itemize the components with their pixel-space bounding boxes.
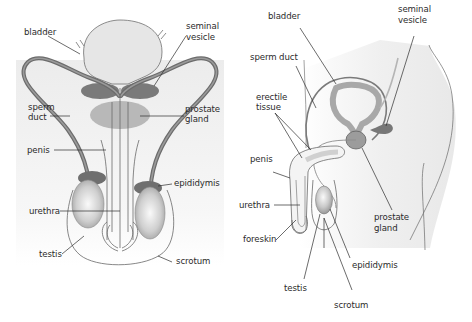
side-label-testis: testis <box>284 283 307 294</box>
side-label-urethra: urethra <box>239 200 270 211</box>
front-testis-left <box>72 180 104 228</box>
front-label-epididymis: epididymis <box>174 178 220 189</box>
front-label-seminal-vesicle-line2: vesicle <box>186 32 215 43</box>
front-view-diagram <box>0 0 472 322</box>
front-label-sperm-duct-line1: sperm <box>28 102 54 113</box>
front-label-seminal-vesicle-line1: seminal <box>186 21 219 32</box>
front-testis-right <box>135 187 165 239</box>
side-label-prostate-gland-line2: gland <box>374 223 398 234</box>
side-label-seminal-vesicle-line1: seminal <box>398 4 431 15</box>
side-label-erectile-tissue-line2: tissue <box>256 102 281 113</box>
side-label-bladder: bladder <box>268 11 300 22</box>
side-label-prostate-gland-line1: prostate <box>374 212 409 223</box>
front-label-scrotum: scrotum <box>176 256 210 267</box>
side-label-penis: penis <box>250 154 273 165</box>
side-label-erectile-tissue-line1: erectile <box>256 92 287 103</box>
side-label-foreskin: foreskin <box>243 234 276 245</box>
front-label-sperm-duct-line2: duct <box>28 112 47 123</box>
anatomy-figure: bladder seminal vesicle sperm duct prost… <box>0 0 472 322</box>
side-label-sperm-duct: sperm duct <box>250 52 298 63</box>
front-label-testis: testis <box>39 249 62 260</box>
front-label-bladder: bladder <box>24 27 56 38</box>
side-label-epididymis: epididymis <box>352 260 398 271</box>
side-label-seminal-vesicle-line2: vesicle <box>398 15 427 26</box>
side-label-scrotum: scrotum <box>334 300 368 311</box>
front-label-urethra: urethra <box>29 206 60 217</box>
front-label-penis: penis <box>27 145 50 156</box>
front-label-prostate-gland-line1: prostate <box>185 104 220 115</box>
front-label-prostate-gland-line2: gland <box>185 114 209 125</box>
